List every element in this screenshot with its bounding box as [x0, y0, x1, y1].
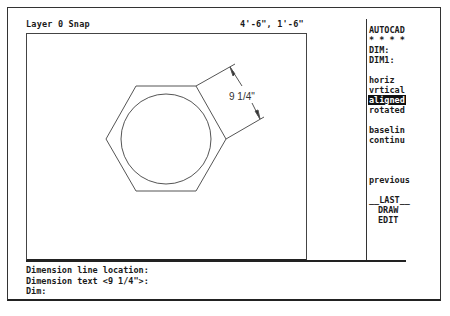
- command-prompt[interactable]: Dim:: [26, 286, 149, 297]
- menu-item-autocad[interactable]: AUTOCAD: [369, 25, 410, 35]
- menu-item-previous[interactable]: previous: [369, 175, 410, 185]
- command-history-line-2: Dimension text <9 1/4">:: [26, 276, 149, 287]
- extension-line-1: [196, 64, 235, 86]
- menu-item-last[interactable]: __LAST__: [369, 195, 410, 205]
- hexagon-shape: [106, 86, 226, 191]
- circle-shape: [121, 94, 211, 184]
- menu-item-edit[interactable]: EDIT: [369, 215, 410, 225]
- command-history-line-1: Dimension line location:: [26, 265, 149, 276]
- menu-item-dim[interactable]: DIM:: [369, 45, 410, 55]
- menu-item-vrtical[interactable]: vrtical: [369, 85, 410, 95]
- menu-item-rotated[interactable]: rotated: [369, 105, 410, 115]
- arrowhead-upper: [230, 67, 235, 76]
- command-divider: [26, 260, 406, 262]
- menu-item-draw[interactable]: DRAW: [369, 205, 410, 215]
- dimension-label: 9 1/4": [229, 91, 255, 102]
- menu-item-horiz[interactable]: horiz: [369, 75, 410, 85]
- menu-item-baselin[interactable]: baselin: [369, 125, 410, 135]
- menu-item-aligned[interactable]: aligned: [368, 95, 406, 105]
- menu-item-dim1[interactable]: DIM1:: [369, 55, 410, 65]
- menu-item-continu[interactable]: continu: [369, 135, 410, 145]
- menu-separator: [366, 19, 367, 261]
- command-line-area[interactable]: Dimension line location: Dimension text …: [26, 265, 149, 297]
- menu-item-stars[interactable]: * * * *: [369, 35, 410, 45]
- extension-line-2: [226, 117, 264, 139]
- arrowhead-lower: [255, 110, 260, 119]
- screen-menu: AUTOCAD * * * * DIM: DIM1: horiz vrtical…: [369, 25, 410, 225]
